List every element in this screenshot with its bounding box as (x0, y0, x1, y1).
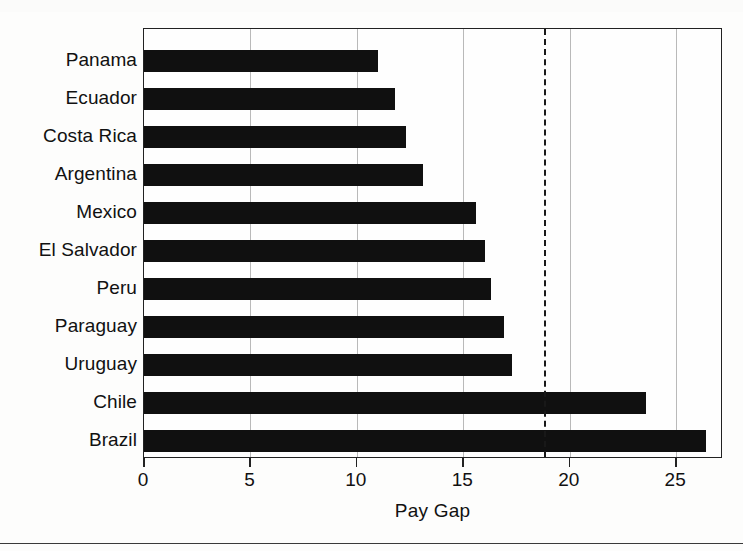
bar (144, 430, 706, 452)
y-axis-label-ecuador: Ecuador (0, 87, 137, 109)
y-axis-label-peru: Peru (0, 277, 137, 299)
y-axis-label-mexico: Mexico (0, 201, 137, 223)
x-tick-label-15: 15 (452, 469, 473, 491)
bar (144, 278, 491, 300)
bar (144, 240, 485, 262)
x-tick-label-5: 5 (244, 469, 255, 491)
threshold-dashed-line-stroke (544, 29, 546, 457)
y-axis-label-el-salvador: El Salvador (0, 239, 137, 261)
x-tick-mark-25 (675, 458, 677, 467)
plot-area (143, 28, 722, 458)
bar (144, 126, 406, 148)
x-tick-mark-20 (569, 458, 571, 467)
bar (144, 354, 512, 376)
bar (144, 202, 476, 224)
x-tick-mark-0 (143, 458, 145, 467)
x-tick-label-0: 0 (138, 469, 149, 491)
x-tick-label-25: 25 (665, 469, 686, 491)
y-axis-category-labels: PanamaEcuadorCosta RicaArgentinaMexicoEl… (0, 28, 137, 458)
chart-page: PanamaEcuadorCosta RicaArgentinaMexicoEl… (0, 0, 743, 551)
page-bottom-rule (0, 543, 743, 544)
x-tick-label-10: 10 (345, 469, 366, 491)
y-axis-label-argentina: Argentina (0, 163, 137, 185)
y-axis-label-uruguay: Uruguay (0, 353, 137, 375)
x-tick-mark-5 (249, 458, 251, 467)
page-top-margin (0, 0, 743, 12)
bar (144, 316, 504, 338)
y-axis-label-brazil: Brazil (0, 429, 137, 451)
y-axis-label-chile: Chile (0, 391, 137, 413)
y-axis-label-panama: Panama (0, 49, 137, 71)
x-axis-title: Pay Gap (143, 500, 722, 522)
y-axis-label-costa-rica: Costa Rica (0, 125, 137, 147)
x-tick-mark-15 (462, 458, 464, 467)
bar (144, 88, 395, 110)
bar (144, 164, 423, 186)
y-axis-label-paraguay: Paraguay (0, 315, 137, 337)
bar (144, 50, 378, 72)
x-tick-mark-10 (356, 458, 358, 467)
bar (144, 392, 646, 414)
x-tick-label-20: 20 (558, 469, 579, 491)
gridline-25 (676, 29, 677, 457)
